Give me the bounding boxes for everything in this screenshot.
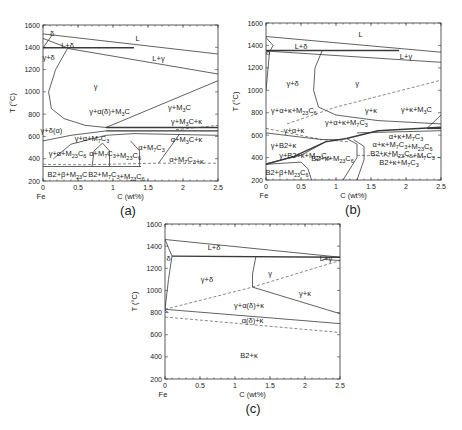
y-tick-label: 200 [28,178,40,185]
y-tick-label: 400 [28,155,40,162]
x-tick-label: 2 [404,183,408,190]
phase-region-label: B2+κ [240,351,258,360]
y-tick-label: 200 [251,177,263,184]
phase-region-label: L+γ [320,254,333,263]
x-tick-label: 1 [233,382,237,389]
phase-region-label: L+γ [400,52,413,61]
y-tick-label: 1200 [146,265,162,272]
phase-region-label: δ [50,29,54,38]
phase-region-label: L+δ [61,41,74,50]
phase-region-label: δ [166,254,170,263]
phase-boundary-line [427,115,441,128]
phase-region-label: γ+δ(α) [41,126,63,135]
x-tick-label: 2.5 [213,184,223,191]
y-tick-label: 1400 [146,243,162,250]
phase-boundary-line [68,48,219,74]
x-tick-label: 2.5 [335,382,345,389]
phase-diagram-panel-a: 00.511.522.52004006008001000120014001600… [8,22,223,219]
y-axis-label: T (°C) [231,91,240,111]
x-tick-label: 0.5 [73,184,83,191]
x-tick-label: 1.5 [265,382,275,389]
y-tick-label: 600 [150,331,162,338]
y-tick-label: 1600 [24,22,40,29]
phase-boundary-line [165,310,169,312]
phase-region-label: L+δ [208,243,221,252]
x-tick-label: 2 [181,184,185,191]
phase-region-label: α+M3C+κ [171,135,203,145]
x-tick-label: 2 [303,382,307,389]
phase-region-label: γ+α+M23C6 [49,149,87,159]
phase-region-label: α+M7C3 [138,143,165,153]
y-tick-label: 600 [28,133,40,140]
phase-region-label: γ+α(δ)+κ [234,301,264,310]
phase-region-label: γ [355,79,359,88]
phase-region-label: γ+α+κ [284,126,305,135]
y-tick-label: 400 [150,353,162,360]
phase-region-label: L [135,34,139,43]
phase-region-label: γ+M3C [168,103,191,113]
phase-region-label: B2+M7C3+M23C6 [88,170,145,182]
phase-region-label: γ+δ [286,79,298,88]
phase-region-label: γ+κ [365,106,377,115]
x-tick-label: 1.5 [366,183,376,190]
phase-region-label: γ [268,269,272,278]
phase-region-label: L+γ [152,54,165,63]
y-tick-label: 1000 [146,287,162,294]
y-tick-label: 1400 [24,44,40,51]
phase-boundary-line [266,133,343,140]
phase-boundary-line [253,287,341,314]
x-tick-label: 0 [41,184,45,191]
y-tick-label: 400 [251,154,263,161]
x-axis-label: C (wt%) [239,390,266,399]
y-tick-label: 1000 [24,88,40,95]
phase-region-label: δ [266,48,270,57]
y-tick-label: 1600 [146,221,162,228]
phase-region-label: γ [94,82,98,91]
y-tick-label: 600 [251,132,263,139]
x-tick-label: 1 [111,184,115,191]
y-tick-label: 1600 [247,20,263,27]
phase-region-label: α(δ)+κ [242,316,264,325]
x-tick-label: 0.5 [195,382,205,389]
phase-region-label: α+M7C3+M23C6 [89,149,141,161]
phase-region-label: B2+κ+M23C6 [311,154,354,164]
phase-region-label: L+δ [295,42,308,51]
phase-region-label: γ+δ [201,275,213,284]
y-tick-label: 800 [150,309,162,316]
phase-boundaries [43,34,218,167]
phase-region-label: L [358,30,362,39]
phase-diagram-panel-b: 00.511.522.52004006008001000120014001600… [231,20,446,218]
y-tick-label: 1400 [247,42,263,49]
phase-region-label: γ+α+κ+M7C3 [325,118,368,128]
y-axis-label: T (°C) [130,291,139,311]
x-tick-label: 1 [334,183,338,190]
phase-diagram-figure: 00.511.522.52004006008001000120014001600… [0,0,462,430]
x-tick-label: 0.5 [296,183,306,190]
panel-caption: (c) [245,401,260,416]
phase-boundary-line [266,51,441,62]
phase-region-label: B2+β+M23C [47,170,88,180]
phase-region-label: γ+κ [299,289,311,298]
phase-region-label: γ+M3C+κ [171,117,202,127]
phase-boundary-line [165,240,172,310]
panel-caption: (b) [345,202,361,217]
phase-region-label: γ+κ+M3C [401,105,433,115]
phase-region-label: α+M7C3+κ [169,155,204,166]
y-tick-label: 1200 [24,66,40,73]
y-tick-label: 200 [150,376,162,383]
x-axis-origin-label: Fe [260,191,269,200]
phase-boundary-line [165,240,340,258]
phase-boundary-line [253,256,257,287]
phase-diagram-panel-c: 00.511.522.52004006008001000120014001600… [130,221,345,417]
panel-caption: (a) [120,203,136,218]
y-axis-label: T (°C) [8,93,17,113]
phase-region-label: γ+α+M7C3 [75,134,110,144]
x-tick-label: 2.5 [436,183,446,190]
phase-region-label: B2+β+M23C6 [265,168,308,178]
phase-region-label: γ+α(δ)+M3C [89,107,130,117]
y-tick-label: 800 [251,109,263,116]
x-axis-origin-label: Fe [37,192,46,201]
x-axis-label: C (wt%) [340,191,367,200]
phase-region-label: B2+κ+M7C3 [379,158,418,168]
y-tick-label: 1000 [247,87,263,94]
